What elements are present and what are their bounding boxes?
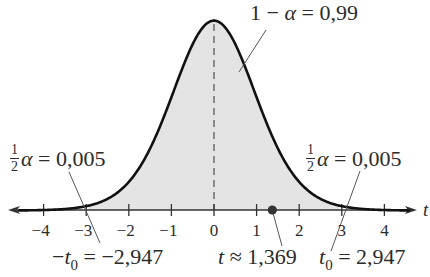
axis-variable-label: t	[423, 200, 428, 219]
x-tick-label: 0	[210, 222, 219, 239]
center-area-label: 1 − α = 0,99	[250, 2, 358, 24]
alpha-symbol: α	[284, 0, 296, 25]
half-fraction: 12	[306, 143, 315, 174]
negative-critical-value: = −2,947	[78, 244, 163, 269]
center-area-leader	[239, 30, 266, 72]
subscript-zero: 0	[71, 257, 79, 273]
positive-critical-value-label: t0 = 2,947	[319, 246, 406, 268]
right-tail-value: = 0,005	[329, 146, 402, 171]
x-tick-label: 4	[380, 222, 389, 239]
test-statistic-leader	[273, 214, 282, 246]
test-statistic-label: t ≈ 1,369	[218, 246, 297, 268]
center-area-lhs: 1 −	[250, 0, 284, 25]
subscript-zero: 0	[325, 257, 333, 273]
minus-sign: −	[52, 244, 64, 269]
right-tail-label: 12α = 0,005	[306, 145, 401, 176]
negative-critical-value-label: −t0 = −2,947	[52, 246, 163, 268]
x-tick-label: 3	[338, 222, 347, 239]
t-symbol: t	[64, 244, 70, 269]
alpha-symbol: α	[317, 146, 329, 171]
x-tick-label: −3	[74, 222, 92, 239]
alpha-symbol: α	[21, 146, 33, 171]
fraction-numerator: 1	[306, 143, 315, 159]
left-tail-value: = 0,005	[33, 146, 106, 171]
x-tick-label: 2	[295, 222, 304, 239]
center-area-value: = 0,99	[296, 0, 358, 25]
x-tick-label: −4	[32, 222, 50, 239]
test-statistic-value: ≈ 1,369	[224, 244, 297, 269]
x-tick-label: −1	[159, 222, 177, 239]
fraction-numerator: 1	[10, 143, 19, 159]
t-distribution-figure: −4−3−2−101234 t 1 − α = 0,99 12α = 0,005…	[0, 0, 430, 277]
x-tick-label: 1	[252, 222, 261, 239]
test-statistic-point	[268, 205, 277, 214]
left-tail-label: 12α = 0,005	[10, 145, 105, 176]
x-tick-label: −2	[117, 222, 135, 239]
positive-critical-value: = 2,947	[333, 244, 406, 269]
half-fraction: 12	[10, 143, 19, 174]
fraction-denominator: 2	[10, 159, 19, 174]
fraction-denominator: 2	[306, 159, 315, 174]
